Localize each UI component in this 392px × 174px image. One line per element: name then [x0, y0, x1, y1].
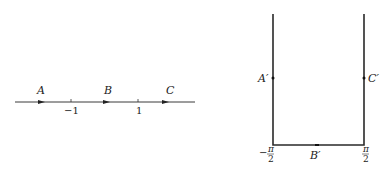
label-c: C: [166, 84, 175, 97]
direction-arrow-icon: [38, 100, 45, 104]
label-b-prime: B′: [309, 149, 321, 162]
label-b: B: [103, 84, 112, 97]
svg-text:−: −: [259, 147, 267, 158]
tick-label-neg-one: −1: [64, 105, 79, 116]
point-c-prime: [363, 77, 366, 80]
conformal-map-diagram: A B C −1 1 A′ C′ B′ − π 2 π 2: [0, 0, 392, 174]
label-a: A: [36, 84, 45, 97]
svg-text:π: π: [267, 144, 275, 154]
label-c-prime: C′: [368, 72, 379, 85]
svg-text:2: 2: [363, 154, 369, 164]
direction-arrow-icon: [103, 100, 110, 104]
tick-label-neg-half-pi: − π 2: [259, 144, 275, 164]
svg-text:2: 2: [268, 154, 274, 164]
direction-arrow-icon: [162, 100, 169, 104]
point-a-prime: [272, 77, 275, 80]
half-strip-boundary: [273, 14, 364, 145]
tick-label-one: 1: [136, 105, 142, 116]
tick-label-half-pi: π 2: [362, 144, 370, 164]
point-b-prime: [315, 144, 319, 146]
label-a-prime: A′: [257, 72, 269, 85]
svg-text:π: π: [362, 144, 370, 154]
